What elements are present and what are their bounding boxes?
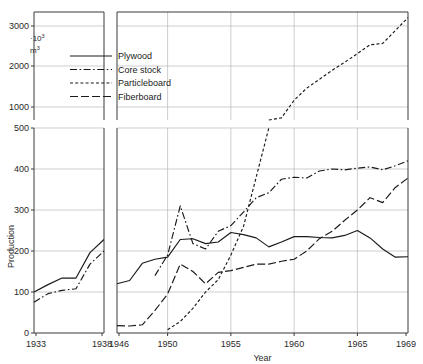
series-path-left	[34, 251, 104, 302]
x-axis-title: Year	[253, 353, 271, 363]
y-unit-label-m3: m3	[30, 45, 40, 55]
axis-frame-layer	[31, 12, 408, 336]
legend-label-fiberboard: Fiberboard	[118, 92, 162, 102]
series-layer	[34, 18, 408, 330]
y-tick-label: 0	[24, 328, 29, 338]
x-tick-label: 1965	[347, 339, 367, 349]
y-tick-label: 3000	[9, 21, 29, 31]
x-tick-label: 1969	[396, 339, 416, 349]
production-line-chart: 0100200300400500100020003000193319381946…	[0, 0, 423, 364]
y-tick-label: 1000	[9, 102, 29, 112]
series-plywood	[34, 231, 408, 293]
x-tick-label: 1946	[109, 339, 129, 349]
y-tick-label: 400	[14, 164, 29, 174]
y-tick-label: 300	[14, 205, 29, 215]
series-path-left	[34, 240, 104, 292]
x-tick-label: 1955	[221, 339, 241, 349]
series-fiberboard	[117, 178, 408, 326]
x-tick-label: 1933	[26, 339, 46, 349]
series-path-right	[117, 178, 408, 326]
legend-label-plywood: Plywood	[118, 51, 152, 61]
legend-label-particleboard: Particleboard	[118, 78, 171, 88]
series-core-stock	[34, 161, 408, 302]
y-unit-label: ·103	[30, 33, 45, 43]
series-path-right	[269, 18, 408, 120]
x-tick-label: 1960	[284, 339, 304, 349]
y-tick-label: 2000	[9, 61, 29, 71]
legend-label-core-stock: Core stock	[118, 65, 162, 75]
series-particleboard	[168, 18, 408, 330]
y-axis-title: Production	[6, 225, 16, 268]
series-path-right	[168, 128, 269, 330]
grid-layer	[34, 12, 408, 333]
chart-container: 0100200300400500100020003000193319381946…	[0, 0, 423, 364]
tick-label-layer: 0100200300400500100020003000193319381946…	[9, 21, 416, 349]
series-path-right	[155, 161, 408, 276]
legend: PlywoodCore stockParticleboardFiberboard	[70, 51, 171, 101]
y-tick-label: 100	[14, 287, 29, 297]
y-tick-label: 500	[14, 123, 29, 133]
x-tick-label: 1950	[158, 339, 178, 349]
y-tick-label: 200	[14, 246, 29, 256]
series-path-right	[117, 231, 408, 284]
